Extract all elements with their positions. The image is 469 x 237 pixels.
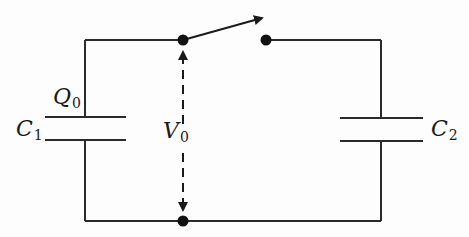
circuit-diagram: Q0 C1 V0 C2	[0, 0, 469, 237]
capacitor-c1	[45, 117, 126, 140]
switch-arm[interactable]	[183, 18, 262, 40]
right-wires	[265, 40, 381, 221]
label-q0: Q0	[53, 86, 81, 110]
label-c1: C1	[16, 118, 43, 142]
circuit-drawing	[0, 0, 469, 237]
label-c2: C2	[431, 118, 458, 142]
label-v0: V0	[163, 120, 189, 144]
bottom-junction-dot	[178, 216, 189, 227]
switch-contact-dot	[261, 35, 272, 46]
top-junction-dot	[178, 35, 189, 46]
capacitor-c2	[340, 118, 423, 141]
